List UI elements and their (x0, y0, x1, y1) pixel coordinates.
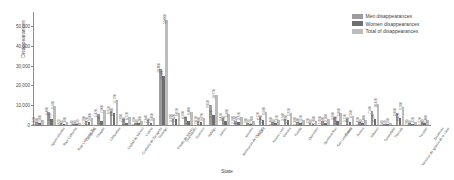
bar: 2,320 (277, 120, 280, 125)
bar-group: 4,2602,1406,400 (182, 12, 194, 125)
bar-value-label: 1,900 (251, 116, 254, 124)
bar: 7,600 (103, 110, 106, 125)
legend-item[interactable]: Men disappearances (352, 13, 419, 19)
bar: 1,380 (66, 122, 69, 125)
bar: 4,760 (352, 116, 355, 125)
bar: 2,400 (426, 120, 429, 125)
bar: 3,100 (327, 119, 330, 125)
bar: 3,920 (240, 117, 243, 125)
bar: 2,100 (140, 121, 143, 125)
bar-group: 5,4202,1807,600 (95, 12, 107, 125)
bar-chart: Disappearances State 010,00020,00030,000… (0, 0, 454, 180)
bar-group: 28,40024,60053,000 (157, 12, 169, 125)
bar: 6,400 (190, 112, 193, 125)
bar-group: 3,9801,8805,860 (332, 12, 344, 125)
bar: 920 (78, 123, 81, 125)
bar-group: 1,3801,1402,520 (294, 12, 306, 125)
bar-value-label: 24,600 (161, 71, 164, 80)
bar-value-label: 1,880 (335, 116, 338, 124)
bar: 1,320 (414, 122, 417, 125)
x-tick-label: Quintana Roo (324, 127, 338, 146)
bar-value-label: 9,850 (207, 101, 210, 109)
bar: 6,580 (265, 112, 268, 125)
x-tick-label: Tabasco (370, 127, 380, 139)
x-axis-ticks: AguascalientesBaja CaliforniaBaja Califo… (33, 127, 431, 169)
bar-value-label: 2,680 (285, 115, 288, 123)
bar: 2,400 (364, 120, 367, 125)
x-tick-label: Chihuahua (110, 127, 122, 142)
x-tick-label: Jalisco (220, 127, 228, 137)
bar-group: 8205601,380 (58, 12, 70, 125)
bar-value-label: 6,580 (263, 107, 266, 115)
y-tick-label: 20,000 (16, 83, 30, 88)
bar-group: 2,3401,1203,460 (145, 12, 157, 125)
bar-group: 6,9505,84012,790 (108, 12, 120, 125)
bar-value-label: 5,840 (111, 109, 114, 117)
legend-item[interactable]: Women disappearances (352, 21, 419, 27)
bar-value-label: 10,420 (375, 99, 378, 108)
bar-group: 2,0101,6803,690 (195, 12, 207, 125)
bar-value-label: 2,100 (139, 116, 142, 124)
x-tick-label: Querétaro (309, 127, 320, 141)
y-tick (31, 125, 34, 126)
bar-group: 1,4608602,320 (269, 12, 281, 125)
bar-value-label: 6,400 (188, 107, 191, 115)
bar-value-label: 3,420 (397, 113, 400, 121)
bar: 3,460 (153, 118, 156, 125)
bar-value-label: 4,220 (126, 112, 129, 120)
y-tick-label: 0 (27, 123, 30, 128)
bar-value-label: 2,500 (39, 115, 42, 123)
bar-group: 3,4201,9605,380 (220, 12, 232, 125)
bar-value-label: 3,600 (89, 113, 92, 121)
bar: 5,380 (227, 114, 230, 125)
bar-value-label: 12,790 (114, 94, 117, 103)
bar-group: 540380920 (70, 12, 82, 125)
bar-value-label: 1,320 (412, 118, 415, 126)
bar-group: 2,9801,2404,220 (120, 12, 132, 125)
x-tick-label: Ciudad de México (127, 127, 145, 151)
legend-swatch (352, 29, 363, 34)
bar-group: 1,2608402,100 (133, 12, 145, 125)
bar: 4,220 (128, 117, 131, 125)
bar-group: 3,2402,6805,920 (282, 12, 294, 125)
x-tick-label: Puebla (294, 127, 303, 137)
bar-value-label: 2,180 (98, 116, 101, 124)
bar-value-label: 3,920 (238, 112, 241, 120)
bar-value-label: 2,460 (260, 115, 263, 123)
bar-value-label: 2,520 (300, 115, 303, 123)
bar-value-label: 1,880 (313, 116, 316, 124)
bar-value-label: 5,380 (226, 109, 229, 117)
legend-swatch (352, 14, 363, 19)
bar-group: 6,4803,2609,740 (45, 12, 57, 125)
bar: 3,690 (203, 118, 206, 125)
x-tick-label: Hidalgo (208, 127, 217, 138)
bar-value-label: 4,760 (350, 111, 353, 119)
y-axis-title: Disappearances (20, 0, 26, 84)
bar-group: 4,1202,4606,580 (257, 12, 269, 125)
bar-value-label: 9,280 (400, 102, 403, 110)
bar-value-label: 7,600 (101, 105, 104, 113)
bar: 5,860 (339, 113, 342, 125)
bar-value-label: 5,920 (288, 108, 291, 116)
bar-value-label: 14,970 (213, 90, 216, 99)
bar-group: 3,1802,8406,020 (170, 12, 182, 125)
bar-value-label: 2,400 (425, 115, 428, 123)
bar: 12,790 (116, 100, 119, 125)
bar-value-label: 3,460 (151, 113, 154, 121)
y-tick-label: 40,000 (16, 43, 30, 48)
legend-item[interactable]: Total of disappearances (352, 28, 419, 34)
legend-label: Women disappearances (366, 21, 420, 27)
bar-value-label: 7,240 (369, 106, 372, 114)
bar-value-label: 1,960 (223, 116, 226, 124)
bar-group: 1,5208802,400 (419, 12, 431, 125)
x-tick-label: Sinaloa (344, 127, 353, 138)
bar-value-label: 2,400 (362, 115, 365, 123)
bar-value-label: 3,260 (49, 114, 52, 122)
bar-value-label: 53,000 (163, 14, 166, 23)
bar-group: 1,8601,2403,100 (319, 12, 331, 125)
bar: 1,160 (389, 123, 392, 125)
bar: 2,500 (41, 120, 44, 125)
bar: 3,600 (91, 118, 94, 125)
bar-value-label: 1,640 (347, 117, 350, 125)
legend-label: Total of disappearances (366, 28, 419, 34)
